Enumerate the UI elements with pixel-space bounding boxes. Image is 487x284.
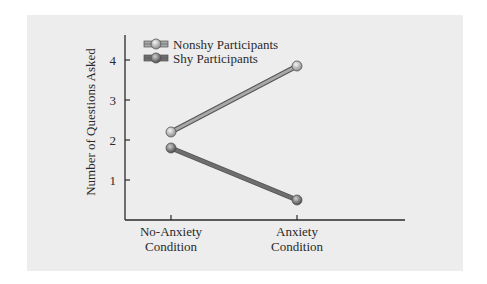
x-category-label: No-Anxiety [140,224,203,239]
legend-marker-icon [151,53,161,63]
legend-marker-icon [151,39,161,49]
axes: 1234No-AnxietyConditionAnxietyConditionN… [83,35,405,254]
x-category-label: Condition [271,239,324,254]
x-category-label: Anxiety [276,224,318,239]
data-point [166,127,176,137]
line-chart: 1234No-AnxietyConditionAnxietyConditionN… [0,0,487,284]
y-axis-title: Number of Questions Asked [83,48,98,196]
legend-item-shy: Shy Participants [144,51,258,66]
legend-item-nonshy: Nonshy Participants [144,37,278,52]
data-point [166,143,176,153]
data-point [292,195,302,205]
y-tick-label: 2 [110,133,117,148]
x-category-label: Condition [145,239,198,254]
y-tick-label: 3 [110,93,117,108]
y-tick-label: 1 [110,173,117,188]
legend-label: Shy Participants [173,51,258,66]
series-group [166,61,302,205]
data-point [292,61,302,71]
legend-label: Nonshy Participants [173,37,278,52]
legend: Nonshy ParticipantsShy Participants [144,37,278,66]
y-tick-label: 4 [110,53,117,68]
series-shy [166,143,302,205]
series-nonshy [166,61,302,137]
